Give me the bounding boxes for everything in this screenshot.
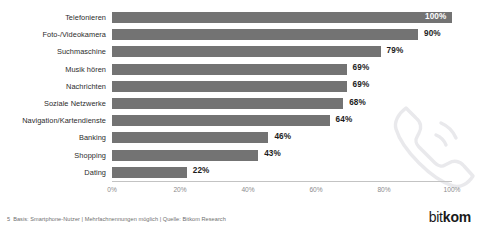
- bar-track: 69%: [112, 61, 452, 78]
- logo-light-part: bit: [429, 209, 443, 225]
- category-label: Navigation/Kartendienste: [0, 112, 106, 129]
- chart-row: Suchmaschine 79%: [0, 43, 483, 60]
- logo-bold-part: kom: [443, 209, 471, 225]
- footnote: 5Basis: Smartphone-Nutzer | Mehrfachnenn…: [7, 216, 226, 222]
- category-label: Musik hören: [0, 61, 106, 78]
- bar: [112, 167, 187, 178]
- x-tick-label: 60%: [309, 186, 322, 193]
- bar-track: 79%: [112, 43, 452, 60]
- x-tick-label: 100%: [444, 186, 461, 193]
- clipped-top-text: [36, 0, 296, 3]
- bar-chart: Telefonieren 100% Foto-/Videokamera 90% …: [0, 0, 483, 238]
- chart-row: Foto-/Videokamera 90%: [0, 26, 483, 43]
- value-label: 46%: [274, 132, 291, 141]
- bar: [112, 29, 418, 40]
- value-label: 68%: [349, 98, 366, 107]
- chart-row: Telefonieren 100%: [0, 9, 483, 26]
- value-label: 22%: [193, 166, 210, 175]
- chart-row: Nachrichten 69%: [0, 78, 483, 95]
- bar: [112, 12, 452, 23]
- x-axis-tick-labels: 0% 20% 40% 60% 80% 100%: [0, 186, 483, 198]
- chart-row: Musik hören 69%: [0, 61, 483, 78]
- bar: [112, 150, 258, 161]
- bar-track: 46%: [112, 129, 452, 146]
- x-tick-label: 20%: [173, 186, 186, 193]
- bar: [112, 132, 268, 143]
- footnote-marker: 5: [7, 216, 10, 222]
- value-label: 100%: [425, 12, 446, 21]
- bar-track: 43%: [112, 147, 452, 164]
- bar-track: 64%: [112, 112, 452, 129]
- category-label: Shopping: [0, 147, 106, 164]
- bar: [112, 98, 343, 109]
- bar-track: 69%: [112, 78, 452, 95]
- x-tick-label: 40%: [241, 186, 254, 193]
- value-label: 69%: [353, 63, 370, 72]
- value-label: 69%: [353, 80, 370, 89]
- value-label: 79%: [387, 46, 404, 55]
- category-label: Banking: [0, 129, 106, 146]
- chart-row: Dating 22%: [0, 164, 483, 181]
- category-label: Foto-/Videokamera: [0, 26, 106, 43]
- bar-track: 68%: [112, 95, 452, 112]
- bar: [112, 81, 347, 92]
- category-label: Nachrichten: [0, 78, 106, 95]
- bar: [112, 46, 381, 57]
- x-axis-line: [112, 181, 452, 182]
- category-label: Telefonieren: [0, 9, 106, 26]
- bitkom-logo: bitkom: [429, 209, 471, 225]
- category-label: Soziale Netzwerke: [0, 95, 106, 112]
- chart-row: Soziale Netzwerke 68%: [0, 95, 483, 112]
- category-label: Dating: [0, 164, 106, 181]
- bar-track: 90%: [112, 26, 452, 43]
- bar: [112, 64, 347, 75]
- value-label: 90%: [424, 29, 441, 38]
- value-label: 64%: [336, 115, 353, 124]
- chart-row: Navigation/Kartendienste 64%: [0, 112, 483, 129]
- bar-track: 100%: [112, 9, 452, 26]
- chart-row: Shopping 43%: [0, 147, 483, 164]
- footnote-text: Basis: Smartphone-Nutzer | Mehrfachnennu…: [13, 216, 226, 222]
- category-label: Suchmaschine: [0, 43, 106, 60]
- chart-row: Banking 46%: [0, 129, 483, 146]
- plot-area: Telefonieren 100% Foto-/Videokamera 90% …: [0, 9, 483, 181]
- x-tick-label: 0%: [107, 186, 117, 193]
- value-label: 43%: [264, 149, 281, 158]
- x-tick-label: 80%: [377, 186, 390, 193]
- bar: [112, 115, 330, 126]
- bar-track: 22%: [112, 164, 452, 181]
